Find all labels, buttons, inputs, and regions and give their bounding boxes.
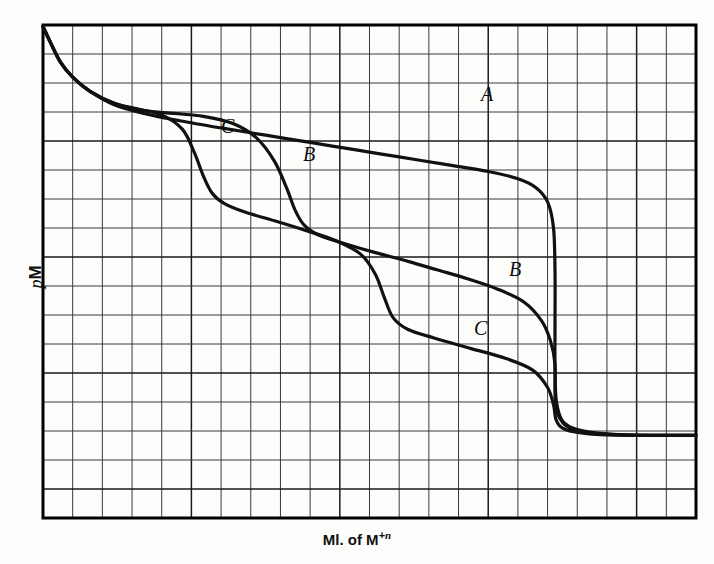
- titration-plot: [0, 0, 714, 564]
- curve-label-c-lower: C: [474, 318, 487, 338]
- grid-layer: [43, 25, 696, 518]
- x-axis-label-charge-n: n: [385, 529, 391, 541]
- titration-curve-figure: pM Ml. of M+n ACBBC: [0, 0, 714, 564]
- y-axis-label-m: M: [26, 265, 46, 279]
- curve-label-b-upper: B: [303, 144, 315, 164]
- y-axis-label-p: p: [26, 280, 47, 289]
- curve-label-a-upper: A: [481, 84, 493, 104]
- curve-label-c-upper: C: [221, 116, 234, 136]
- x-axis-label-main: Ml. of M: [323, 531, 379, 548]
- curve-label-b-lower: B: [509, 259, 521, 279]
- y-axis-label: pM: [0, 247, 81, 307]
- x-axis-label: Ml. of M+n: [0, 529, 714, 548]
